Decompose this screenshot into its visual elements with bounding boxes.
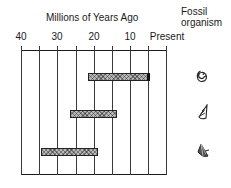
axis-title: Millions of Years Ago xyxy=(46,12,138,23)
range-bar-fan-shell xyxy=(41,148,98,156)
tick-label-10: 10 xyxy=(124,31,135,42)
gridline-40 xyxy=(21,46,22,175)
spiral-shell-icon xyxy=(194,66,212,84)
gridline-present xyxy=(166,46,167,175)
cone-shell-icon xyxy=(195,104,213,122)
fan-shell-icon xyxy=(195,142,213,160)
gridline-35 xyxy=(39,46,40,175)
tick-label-20: 20 xyxy=(88,31,99,42)
tick-label-present: Present xyxy=(150,31,184,42)
column-title-line2: organism xyxy=(181,17,222,28)
tick-label-40: 40 xyxy=(15,31,26,42)
tick-label-30: 30 xyxy=(51,31,62,42)
column-title-line1: Fossil xyxy=(181,6,207,17)
range-bar-cone-shell xyxy=(70,110,117,118)
range-bar-spiral-shell xyxy=(88,73,150,81)
gridline-5 xyxy=(148,46,149,175)
gridline-10 xyxy=(130,46,131,175)
